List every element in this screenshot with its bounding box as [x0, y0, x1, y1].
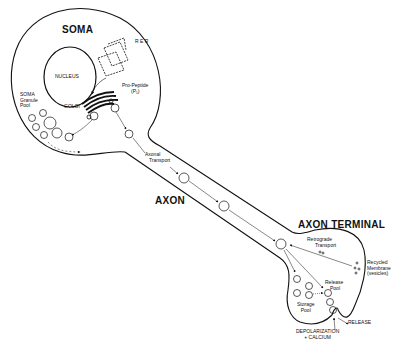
axon-terminal-label: AXON TERMINAL	[298, 219, 385, 230]
retrograde-transport-label: Retrograde Transport	[307, 237, 336, 248]
axon-label: AXON	[155, 195, 185, 206]
rer-label: R E R	[135, 39, 148, 45]
storage-pool-label: Storage Pool	[297, 302, 315, 313]
neuron-diagram	[0, 0, 411, 355]
pro-peptide-label: Pro-Peptide (P₁)	[122, 83, 148, 94]
golgi-label: GOLGI	[64, 104, 80, 110]
vesicles	[29, 104, 361, 314]
nucleus-label: NUCLEUS	[55, 74, 79, 80]
rer-shape	[98, 38, 128, 76]
release-pool-label: Release Pool	[325, 280, 343, 291]
release-label: RELEASE	[348, 320, 371, 326]
depolarization-label: DEPOLARIZATION + CALCIUM	[296, 329, 339, 340]
soma-label: SOMA	[62, 24, 93, 35]
recycled-membrane-label: Recycled Membrane (vesicles)	[367, 260, 391, 277]
axonal-transport-label: Axonal Transport	[145, 152, 170, 163]
soma-granule-pool-label: SOMA Granule Pool	[20, 92, 38, 109]
